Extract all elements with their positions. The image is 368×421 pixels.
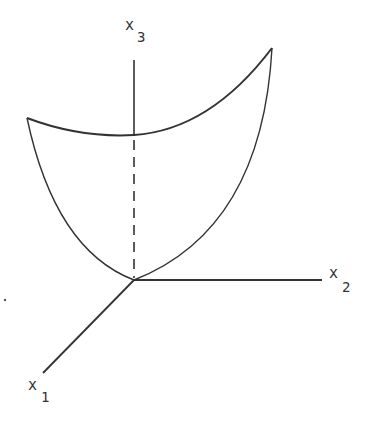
x2-subscript: 2: [342, 280, 350, 294]
stray-dot: [4, 299, 6, 301]
x2-label: x: [329, 266, 338, 281]
paraboloid-diagram: [0, 0, 368, 421]
paraboloid-right-profile: [134, 48, 272, 280]
x1-label: x: [28, 378, 37, 393]
paraboloid-left-profile: [27, 118, 134, 280]
x1-subscript: 1: [41, 390, 49, 404]
x3-label: x: [125, 18, 134, 33]
x3-subscript: 3: [137, 30, 145, 44]
x1-axis: [43, 280, 134, 373]
paraboloid-rim-curve: [27, 48, 272, 135]
